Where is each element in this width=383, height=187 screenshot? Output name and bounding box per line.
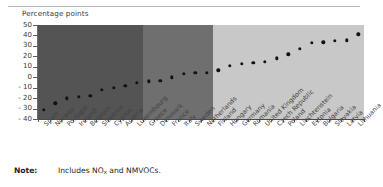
y-axis-labels: 50403020100- 10- 20- 30- 40 (0, 0, 32, 187)
note-row: Note: Includes NOx and NMVOCs. (14, 166, 161, 175)
y-axis-tick (33, 109, 38, 110)
y-axis-tick-label: - 30 (18, 105, 32, 112)
y-axis-tick-label: 0 (28, 74, 32, 81)
y-axis-tick-label: - 40 (18, 116, 32, 123)
note-subscript: x (104, 169, 107, 175)
y-axis-tick (33, 77, 38, 78)
y-axis-tick (33, 35, 38, 36)
y-axis-tick-label: 50 (23, 22, 32, 29)
y-axis-tick-label: - 10 (18, 84, 32, 91)
y-axis-tick-label: - 20 (18, 95, 32, 102)
y-axis-tick-label: 40 (23, 32, 32, 39)
note-text-before: Includes NO (58, 166, 104, 175)
note-text-after: and NMVOCs. (107, 166, 161, 175)
x-axis-tick (38, 119, 39, 122)
note-label: Note: (14, 166, 58, 175)
y-axis-tick-label: 10 (23, 63, 32, 70)
y-axis-tick (33, 56, 38, 57)
note-text: Includes NOx and NMVOCs. (58, 166, 161, 175)
y-axis-tick-label: 20 (23, 53, 32, 60)
y-axis-tick (33, 25, 38, 26)
background-band-group-dark (38, 25, 143, 119)
y-axis-tick-label: 30 (23, 42, 32, 49)
y-axis-tick (33, 88, 38, 89)
header-divider (8, 6, 360, 7)
y-axis-tick (33, 46, 38, 47)
y-axis-tick (33, 67, 38, 68)
y-axis-tick (33, 98, 38, 99)
